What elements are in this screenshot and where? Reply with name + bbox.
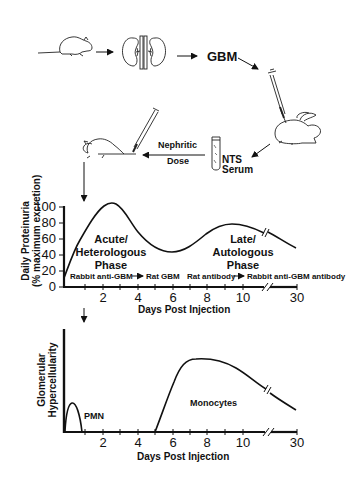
y-tick-label: 80: [32, 215, 56, 230]
proteinuria-x-label: Days Post Injection: [138, 304, 230, 315]
y-tick-label: 0: [32, 279, 56, 294]
x-tick-label: 10: [236, 290, 250, 305]
late-mechanism-source: Rat antibody: [187, 272, 235, 281]
x-tick-label: 4: [134, 435, 141, 450]
monocytes-curve: [155, 359, 266, 432]
phase-line: Phase: [76, 259, 147, 272]
gbm-label: GBM: [207, 49, 237, 64]
phase-line: Acute/: [76, 233, 147, 246]
acute-phase-label: Acute/ Heterologous Phase: [76, 233, 147, 272]
x-tick-label: 30: [290, 290, 304, 305]
x-tick-label: 4: [134, 290, 141, 305]
hypercellularity-y-label: Glomerular Hypercellularity: [36, 340, 58, 420]
monocytes-label: Monocytes: [190, 398, 237, 408]
phase-line: Heterologous: [76, 246, 147, 259]
phase-line: Autologous: [212, 246, 273, 259]
monocytes-curve-tail: [270, 393, 296, 410]
syringe-icon: [133, 108, 159, 152]
late-phase-label: Late/ Autologous Phase: [212, 233, 273, 272]
y-label-line1: Glomerular: [36, 340, 47, 420]
kidney-icon: [122, 36, 165, 69]
acute-mechanism-source: Rabbit anti-GBM: [70, 272, 133, 281]
y-label-line1: Daily Proteinuria: [20, 195, 31, 287]
y-tick-label: 20: [32, 263, 56, 278]
x-tick-label: 2: [99, 290, 106, 305]
nephritic-dose-label-line1: Nephritic: [158, 140, 197, 150]
acute-mechanism-target: Rat GBM: [146, 272, 180, 281]
y-tick-label: 40: [32, 247, 56, 262]
phase-line: Phase: [212, 259, 273, 272]
late-mechanism-target: Rabbit anti-GBM antibody: [247, 272, 345, 281]
syringe-icon: [268, 69, 286, 123]
arrow-gbm-to-rabbit: [238, 58, 258, 69]
x-tick-label: 8: [203, 435, 210, 450]
hypercellularity-x-label: Days Post Injection: [137, 451, 229, 462]
serum-label: Serum: [222, 164, 253, 175]
x-tick-label: 6: [169, 435, 176, 450]
y-tick-label: 60: [32, 231, 56, 246]
rat-icon: [38, 37, 92, 56]
x-tick-label: 10: [236, 435, 250, 450]
x-tick-label: 2: [99, 435, 106, 450]
pmn-curve: [65, 403, 82, 432]
phase-line: Late/: [212, 233, 273, 246]
arrow-rabbit-to-serum: [252, 144, 270, 157]
nephritic-dose-label-line2: Dose: [167, 156, 189, 166]
x-tick-label: 6: [169, 290, 176, 305]
x-tick-label: 8: [203, 290, 210, 305]
test-tube-icon: [212, 137, 220, 170]
y-tick-label: 100: [32, 199, 56, 214]
x-tick-label: 30: [290, 435, 304, 450]
rabbit-icon: [275, 112, 321, 145]
y-label-line2: Hypercellularity: [47, 340, 58, 420]
pmn-label: PMN: [84, 411, 104, 421]
injected-rat-icon: [83, 139, 136, 158]
